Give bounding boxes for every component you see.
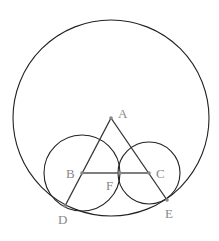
point-f <box>118 171 122 175</box>
label-c: C <box>156 166 165 181</box>
geometry-diagram: A B C F D E <box>0 0 219 241</box>
segment-ae <box>111 118 167 200</box>
point-a <box>109 116 113 120</box>
point-e <box>165 198 169 202</box>
point-c <box>147 171 151 175</box>
label-d: D <box>58 212 67 227</box>
label-e: E <box>165 206 173 221</box>
label-b: B <box>66 166 75 181</box>
points <box>63 116 169 208</box>
segment-ad <box>65 118 111 206</box>
label-f: F <box>106 178 113 193</box>
point-b <box>80 171 84 175</box>
point-d <box>63 204 67 208</box>
label-a: A <box>118 106 128 121</box>
